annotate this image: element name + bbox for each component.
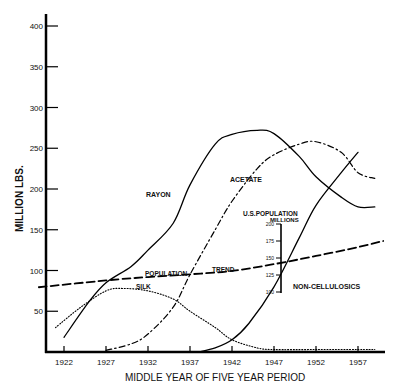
x-tick-label: 1922 xyxy=(55,358,73,367)
y-tick-label: 400 xyxy=(30,22,44,31)
chart: 5010015020025030035040019221927193219371… xyxy=(0,0,398,388)
y-tick-label: 50 xyxy=(34,307,43,316)
label-millions: MILLIONS xyxy=(270,217,299,223)
series-lines xyxy=(39,130,383,352)
series-acetate xyxy=(106,141,375,350)
secondary-tick-label: 100 xyxy=(266,289,275,295)
label-population: POPULATION xyxy=(145,270,187,277)
y-tick-label: 300 xyxy=(30,104,44,113)
label-silk: SILK xyxy=(136,283,151,290)
secondary-tick-label: 150 xyxy=(266,255,275,261)
x-axis-label: MIDDLE YEAR OF FIVE YEAR PERIOD xyxy=(125,372,305,383)
x-tick-label: 1952 xyxy=(307,358,325,367)
label-trend: TREND xyxy=(212,266,235,273)
x-tick-label: 1957 xyxy=(349,358,367,367)
x-tick-label: 1942 xyxy=(223,358,241,367)
secondary-tick-label: 175 xyxy=(266,238,275,244)
series-rayon xyxy=(64,130,375,337)
secondary-tick-label: 125 xyxy=(266,272,275,278)
axes xyxy=(45,14,385,353)
x-tick-label: 1932 xyxy=(139,358,157,367)
x-tick-label: 1937 xyxy=(181,358,199,367)
y-tick-label: 350 xyxy=(30,63,44,72)
label-us-population: U.S.POPULATION xyxy=(243,210,298,217)
y-axis-label: MILLION LBS. xyxy=(14,165,25,232)
secondary-axis-population: 100125150175200 xyxy=(266,221,281,295)
x-tick-label: 1947 xyxy=(265,358,283,367)
x-tick-label: 1927 xyxy=(97,358,115,367)
series-silk xyxy=(56,288,375,349)
series-population-trend xyxy=(39,241,383,287)
y-tick-label: 100 xyxy=(30,267,44,276)
axis-ticks: 5010015020025030035040019221927193219371… xyxy=(30,22,368,367)
y-tick-label: 200 xyxy=(30,185,44,194)
label-acetate: ACETATE xyxy=(230,176,262,183)
y-tick-label: 150 xyxy=(30,226,44,235)
y-tick-label: 250 xyxy=(30,144,44,153)
label-rayon: RAYON xyxy=(146,191,171,198)
series-non-cellulosics xyxy=(198,152,358,352)
line-chart-svg: 5010015020025030035040019221927193219371… xyxy=(0,0,398,388)
label-non-cellulosics: NON-CELLULOSICS xyxy=(293,283,361,290)
